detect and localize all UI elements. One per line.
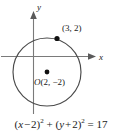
caption-rhs: 17 xyxy=(97,118,108,130)
circle-graph-figure: y x (3, 2) O(2, −2) (x − 2)2 + (y + 2)2 … xyxy=(0,0,122,136)
coordinate-plane-svg: y x (3, 2) O(2, −2) xyxy=(0,0,122,116)
center-point-dot xyxy=(45,70,50,75)
y-axis-label: y xyxy=(36,2,41,12)
center-label: O(2, −2) xyxy=(34,77,65,87)
caption-equals: = xyxy=(88,118,94,130)
y-axis-arrow-icon xyxy=(30,11,37,19)
caption-lhs-x-exponent: 2 xyxy=(40,117,44,125)
equation-caption: (x − 2)2 + (y + 2)2 = 17 xyxy=(0,118,122,130)
caption-lhs-y-var: y xyxy=(59,118,64,130)
x-axis-label: x xyxy=(98,52,103,62)
caption-lhs-y-exponent: 2 xyxy=(81,117,85,125)
caption-lhs-x-op: − xyxy=(24,118,30,130)
y-axis xyxy=(30,11,37,114)
caption-plus: + xyxy=(47,118,53,130)
point-on-circle-dot xyxy=(54,36,59,41)
x-axis-arrow-icon xyxy=(88,53,96,60)
center-label-coords: (2, −2) xyxy=(41,77,66,87)
point-on-circle-label: (3, 2) xyxy=(62,23,82,33)
caption-lhs-y-op: + xyxy=(65,118,71,130)
caption-lhs-x-var: x xyxy=(18,118,23,130)
